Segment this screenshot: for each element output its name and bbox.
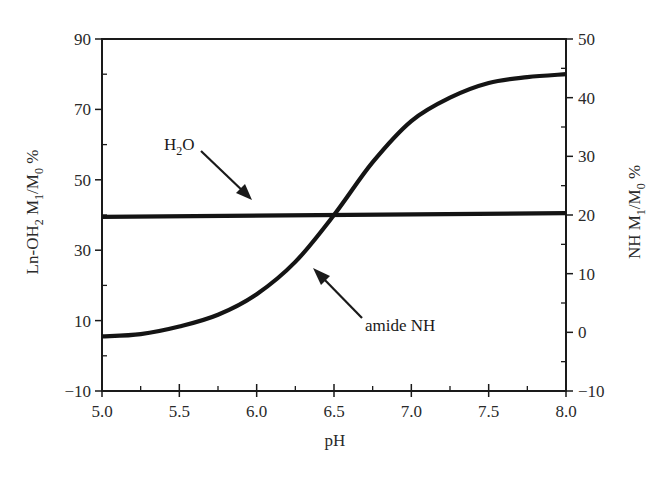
y-axis-right: 50403020100−10 <box>561 30 605 401</box>
y-left-tick-label: 70 <box>74 100 91 119</box>
series-line-amide-nh <box>102 74 566 336</box>
x-tick-label: 8.0 <box>555 402 576 421</box>
y-right-tick-label: 0 <box>578 323 587 342</box>
x-tick-label: 5.0 <box>91 402 112 421</box>
y-right-tick-label: 10 <box>578 265 595 284</box>
annotation-h2o: H2O <box>164 135 252 200</box>
x-tick-label: 7.5 <box>478 402 499 421</box>
y-left-tick-label: 90 <box>74 30 91 49</box>
annotation-h2o-label: H2O <box>164 135 195 158</box>
y-axis-right-title: NH M1/M0 % <box>625 165 648 259</box>
y-right-tick-label: 20 <box>578 206 595 225</box>
annotation-amide-arrow-icon <box>320 275 362 318</box>
x-tick-label: 7.0 <box>401 402 422 421</box>
chart: 5.05.56.06.57.07.58.0 9070503010−10 5040… <box>0 0 671 483</box>
annotation-amide-label: amide NH <box>365 316 435 335</box>
x-tick-label: 5.5 <box>169 402 190 421</box>
x-tick-label: 6.5 <box>323 402 344 421</box>
y-left-tick-label: −10 <box>64 382 91 401</box>
series-layer <box>102 74 566 336</box>
y-left-tick-label: 10 <box>74 312 91 331</box>
x-tick-label: 6.0 <box>246 402 267 421</box>
y-right-tick-label: 50 <box>578 30 595 49</box>
annotation-h2o-arrow-icon <box>201 151 246 194</box>
x-axis-title: pH <box>325 431 346 450</box>
y-left-tick-label: 30 <box>74 241 91 260</box>
y-axis-left-title: Ln-OH2 M1/M0 % <box>23 150 46 275</box>
x-axis: 5.05.56.06.57.07.58.0 <box>91 384 576 421</box>
annotation-amide: amide NH <box>313 268 435 335</box>
y-right-tick-label: 40 <box>578 89 595 108</box>
y-axis-left: 9070503010−10 <box>64 30 107 401</box>
y-right-tick-label: −10 <box>578 382 605 401</box>
y-left-tick-label: 50 <box>74 171 91 190</box>
y-right-tick-label: 30 <box>578 147 595 166</box>
